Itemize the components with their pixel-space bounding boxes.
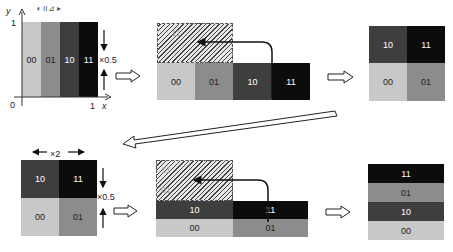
arrow-right-2 — [328, 71, 353, 83]
stretch-arrows-panel4 — [33, 152, 103, 228]
move-arrow-panel5 — [194, 180, 268, 222]
diagram-overlay — [0, 0, 453, 252]
arrow-right-1 — [116, 70, 140, 82]
arrow-diagonal-back — [123, 111, 337, 148]
arrow-right-4 — [326, 206, 350, 218]
axes — [14, 9, 111, 106]
flow-arrows — [114, 70, 353, 218]
move-arrow-panel2 — [198, 42, 272, 98]
arrow-right-3 — [114, 205, 137, 217]
